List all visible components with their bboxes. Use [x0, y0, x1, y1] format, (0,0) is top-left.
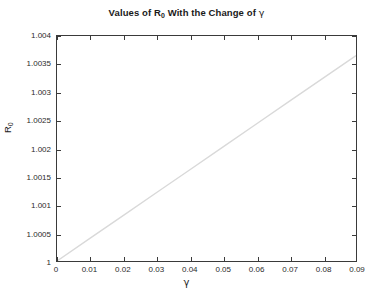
x-tick-mark-top [224, 36, 225, 40]
y-tick-mark-left [57, 93, 61, 94]
y-tick-mark-right [352, 93, 356, 94]
plot-area [56, 35, 357, 262]
y-tick-label: 1.0015 [0, 172, 51, 181]
x-tick-mark-top [57, 36, 58, 40]
x-tick-mark-top [90, 36, 91, 40]
x-tick-label: 0.01 [82, 265, 98, 274]
x-tick-mark-top [124, 36, 125, 40]
y-tick-label: 1.003 [0, 87, 51, 96]
y-tick-label: 1.0005 [0, 229, 51, 238]
x-axis-label: γ [0, 277, 373, 288]
x-tick-label: 0 [54, 265, 58, 274]
x-tick-label: 0.05 [215, 265, 231, 274]
y-tick-mark-left [57, 150, 61, 151]
y-tick-label: 1.004 [0, 31, 51, 40]
figure-container: Values of R0 With the Change of γ R0 γ 1… [0, 0, 373, 308]
x-tick-mark-bottom [191, 257, 192, 261]
y-tick-mark-right [352, 150, 356, 151]
x-tick-mark-bottom [90, 257, 91, 261]
y-axis-label-prefix: R [2, 126, 13, 133]
y-tick-mark-left [57, 178, 61, 179]
y-tick-mark-left [57, 121, 61, 122]
x-tick-mark-bottom [258, 257, 259, 261]
x-tick-mark-bottom [325, 257, 326, 261]
y-tick-label: 1.0035 [0, 59, 51, 68]
y-tick-mark-left [57, 64, 61, 65]
x-tick-mark-bottom [291, 257, 292, 261]
x-tick-label: 0.09 [349, 265, 365, 274]
x-tick-mark-bottom [157, 257, 158, 261]
y-tick-label: 1 [0, 258, 51, 267]
x-tick-label: 0.04 [182, 265, 198, 274]
x-tick-mark-top [157, 36, 158, 40]
x-tick-mark-top [325, 36, 326, 40]
x-tick-label: 0.08 [316, 265, 332, 274]
y-tick-label: 1.001 [0, 201, 51, 210]
x-tick-mark-top [258, 36, 259, 40]
x-tick-label: 0.06 [249, 265, 265, 274]
x-tick-label: 0.03 [149, 265, 165, 274]
x-tick-mark-bottom [224, 257, 225, 261]
data-line-series-r0 [57, 56, 356, 261]
x-tick-mark-bottom [57, 257, 58, 261]
x-tick-mark-top [291, 36, 292, 40]
y-tick-mark-right [352, 36, 356, 37]
y-tick-mark-left [57, 235, 61, 236]
chart-title: Values of R0 With the Change of γ [0, 7, 373, 18]
chart-title-gamma-symbol: γ [259, 7, 265, 18]
y-tick-label: 1.002 [0, 144, 51, 153]
y-tick-mark-right [352, 235, 356, 236]
plot-svg [57, 36, 356, 261]
x-tick-mark-bottom [124, 257, 125, 261]
chart-title-prefix: Values of R [109, 7, 161, 18]
chart-title-mid: With the Change of [165, 7, 259, 18]
x-tick-label: 0.02 [115, 265, 131, 274]
y-tick-label: 1.0025 [0, 116, 51, 125]
y-tick-mark-right [352, 178, 356, 179]
x-tick-mark-top [191, 36, 192, 40]
y-tick-mark-right [352, 64, 356, 65]
y-tick-mark-right [352, 121, 356, 122]
chart-title-subscript: 0 [161, 12, 165, 19]
y-tick-mark-left [57, 206, 61, 207]
x-tick-label: 0.07 [282, 265, 298, 274]
y-tick-mark-right [352, 206, 356, 207]
